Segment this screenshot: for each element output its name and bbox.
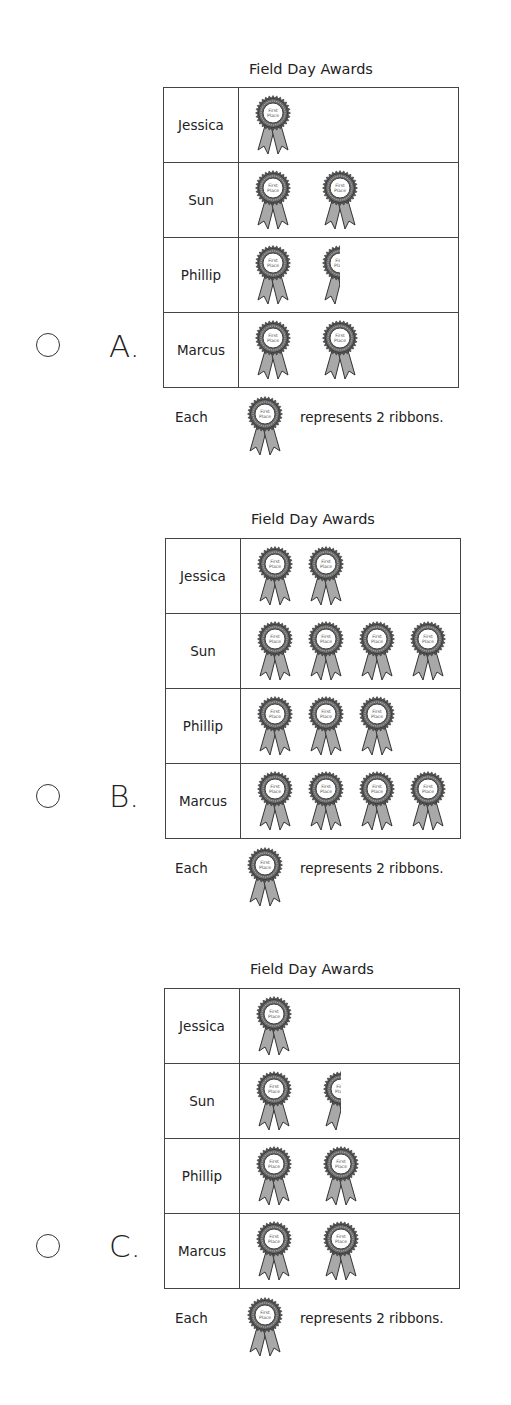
row-label: Phillip xyxy=(165,1139,240,1214)
svg-text:Place: Place xyxy=(267,188,279,193)
option-letter: B. xyxy=(109,781,139,812)
first-place-ribbon-icon: First Place xyxy=(321,1220,361,1282)
symbol-cell: First Place First Place First Place Firs… xyxy=(241,614,461,689)
symbol-cell: First Place First Place xyxy=(240,1214,460,1289)
symbol: First Place xyxy=(254,995,294,1057)
half-symbol: First Place xyxy=(321,1070,341,1132)
svg-text:Place: Place xyxy=(320,714,332,719)
svg-text:First: First xyxy=(260,409,270,414)
symbol-cell: First Place First Place First Place xyxy=(241,689,461,764)
svg-text:Place: Place xyxy=(269,714,281,719)
symbol: First Place xyxy=(255,770,295,832)
row-label: Phillip xyxy=(166,689,241,764)
svg-text:Place: Place xyxy=(320,789,332,794)
table-row: Marcus First Place First Place First Pla… xyxy=(166,764,461,839)
svg-text:First: First xyxy=(321,709,331,714)
key-symbol: First Place xyxy=(245,395,285,457)
svg-text:Place: Place xyxy=(334,338,346,343)
pictograph-table: Jessica First Place First Place Sun Firs… xyxy=(165,538,461,839)
symbol-cell: First Place First Place xyxy=(241,539,461,614)
svg-text:First: First xyxy=(372,634,382,639)
svg-text:Place: Place xyxy=(335,1239,347,1244)
row-label: Sun xyxy=(164,163,239,238)
key-symbol: First Place xyxy=(245,1296,285,1358)
option-letter: C. xyxy=(109,1231,141,1262)
row-label: Marcus xyxy=(165,1214,240,1289)
symbol: First Place xyxy=(253,169,293,231)
pictograph-key: Each First Place represents 2 ribbons. xyxy=(175,409,465,459)
symbol: First Place xyxy=(408,620,448,682)
radio-button-c[interactable] xyxy=(36,1234,60,1258)
table-row: Phillip First Place First Place xyxy=(165,1139,460,1214)
symbol-cell: First Place First Place xyxy=(239,163,459,238)
chart-title: Field Day Awards xyxy=(165,511,461,527)
chart-title: Field Day Awards xyxy=(163,61,459,77)
svg-text:First: First xyxy=(336,1234,346,1239)
table-row: Jessica First Place xyxy=(164,88,459,163)
svg-text:First: First xyxy=(423,634,433,639)
first-place-ribbon-icon: First Place xyxy=(357,695,397,757)
svg-text:Place: Place xyxy=(371,639,383,644)
symbol: First Place xyxy=(306,770,346,832)
svg-text:First: First xyxy=(336,1084,341,1089)
symbol: First Place xyxy=(357,695,397,757)
first-place-ribbon-icon: First Place xyxy=(253,94,293,156)
first-place-ribbon-icon: First Place xyxy=(255,545,295,607)
svg-text:Place: Place xyxy=(259,1315,271,1320)
first-place-ribbon-icon: First Place xyxy=(408,620,448,682)
radio-button-a[interactable] xyxy=(36,333,60,357)
previous-content-fragment xyxy=(0,0,511,4)
table-row: Phillip First Place First Place xyxy=(164,238,459,313)
svg-text:First: First xyxy=(335,258,340,263)
svg-text:First: First xyxy=(335,333,345,338)
first-place-ribbon-icon: First Place xyxy=(321,1145,361,1207)
svg-text:Place: Place xyxy=(269,564,281,569)
svg-text:Place: Place xyxy=(267,263,279,268)
table-row: Sun First Place First Place xyxy=(165,1064,460,1139)
svg-text:First: First xyxy=(336,1159,346,1164)
first-place-ribbon-icon: First Place xyxy=(245,395,285,457)
svg-text:Place: Place xyxy=(269,639,281,644)
svg-text:First: First xyxy=(372,784,382,789)
svg-text:First: First xyxy=(260,860,270,865)
svg-text:First: First xyxy=(268,108,278,113)
svg-text:First: First xyxy=(270,784,280,789)
symbol: First Place xyxy=(357,620,397,682)
first-place-ribbon-icon: First Place xyxy=(254,1220,294,1282)
svg-text:First: First xyxy=(321,559,331,564)
table-row: Jessica First Place First Place xyxy=(166,539,461,614)
svg-text:First: First xyxy=(270,634,280,639)
svg-text:Place: Place xyxy=(422,639,434,644)
first-place-ribbon-icon: First Place xyxy=(306,695,346,757)
svg-text:First: First xyxy=(269,1084,279,1089)
first-place-ribbon-icon: First Place xyxy=(253,169,293,231)
svg-text:First: First xyxy=(269,1009,279,1014)
radio-button-b[interactable] xyxy=(36,784,60,808)
symbol: First Place xyxy=(254,1220,294,1282)
svg-text:Place: Place xyxy=(371,789,383,794)
first-place-ribbon-icon: First Place xyxy=(306,545,346,607)
table-row: Jessica First Place xyxy=(165,989,460,1064)
first-place-ribbon-icon: First Place xyxy=(254,1145,294,1207)
svg-text:Place: Place xyxy=(371,714,383,719)
key-prefix: Each xyxy=(175,860,208,876)
svg-text:First: First xyxy=(269,1234,279,1239)
svg-text:First: First xyxy=(268,183,278,188)
svg-text:First: First xyxy=(268,258,278,263)
symbol-cell: First Place xyxy=(239,88,459,163)
table-row: Marcus First Place First Place xyxy=(165,1214,460,1289)
table-row: Phillip First Place First Place First Pl… xyxy=(166,689,461,764)
svg-text:First: First xyxy=(260,1310,270,1315)
pictograph-table: Jessica First Place Sun First Place Firs… xyxy=(163,87,459,388)
key-prefix: Each xyxy=(175,409,208,425)
svg-text:Place: Place xyxy=(269,789,281,794)
pictograph-key: Each First Place represents 2 ribbons. xyxy=(175,1310,465,1360)
symbol: First Place xyxy=(357,770,397,832)
svg-text:First: First xyxy=(372,709,382,714)
row-label: Marcus xyxy=(166,764,241,839)
first-place-ribbon-icon: First Place xyxy=(245,846,285,908)
half-symbol: First Place xyxy=(320,244,340,306)
symbol: First Place xyxy=(254,1145,294,1207)
symbol-cell: First Place xyxy=(240,989,460,1064)
key-prefix: Each xyxy=(175,1310,208,1326)
